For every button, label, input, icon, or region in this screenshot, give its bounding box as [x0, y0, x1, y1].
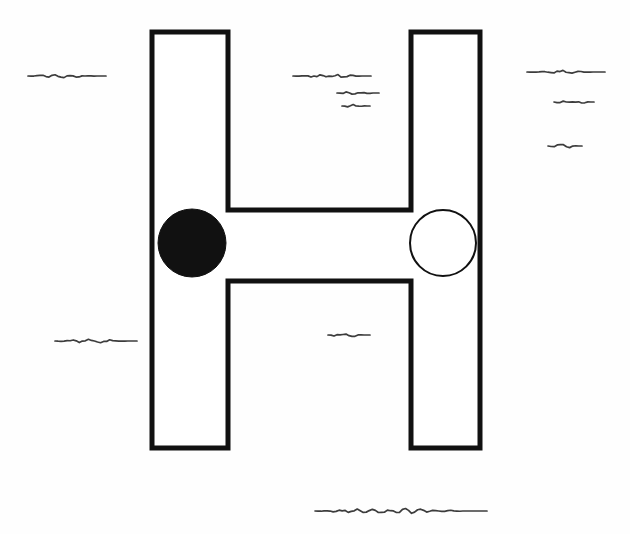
- letter-h-illustration: [0, 0, 630, 534]
- open-circle-marker: [410, 210, 476, 276]
- filled-circle-marker: [158, 209, 226, 277]
- figure-canvas: A large outline capital letter H drawn i…: [0, 0, 630, 534]
